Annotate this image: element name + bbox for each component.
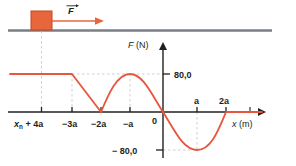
origin-label: 0 <box>152 116 157 126</box>
credit-container: Banco de imagens/Arquivo da editora <box>280 0 296 166</box>
block <box>31 11 52 30</box>
y-tick-label-minus80: − 80,0 <box>112 146 137 156</box>
x-axis-label: x(m) <box>231 119 253 129</box>
curve-zero-marker-minus2a <box>100 111 102 113</box>
y-axis-label: F(N) <box>128 40 149 50</box>
force-vector-label: F <box>68 5 74 16</box>
curve-zero-marker-origin <box>162 111 164 113</box>
force-position-graph-figure: F F(N) x(m) 0 80,0 − 80,0 xn+ 4a −3a −2a… <box>0 0 296 166</box>
x-tick-label-x0plus4a: xn+ 4a <box>13 119 44 130</box>
x-tick-label-minus3a: −3a <box>62 119 78 129</box>
x-tick-label-minusa: −a <box>123 119 134 129</box>
y-tick-label-plus80: 80,0 <box>174 70 192 80</box>
x-tick-label-plus2a: 2a <box>219 96 230 106</box>
x-tick-label-minus2a: −2a <box>91 119 107 129</box>
